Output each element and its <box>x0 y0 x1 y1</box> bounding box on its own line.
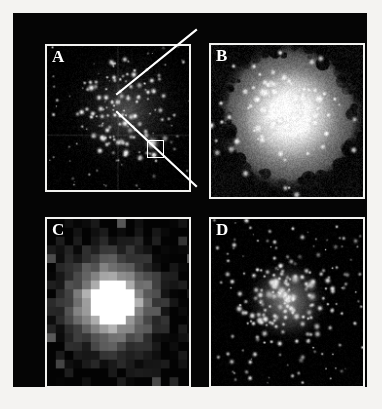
panel-c-label: C <box>52 220 64 239</box>
panel-a-label: A <box>52 47 64 66</box>
panel-d-image <box>211 219 363 386</box>
panel-b[interactable]: B <box>209 43 365 199</box>
panel-c[interactable]: C <box>45 217 191 388</box>
zoom-region-indicator <box>147 140 164 158</box>
panel-b-label: B <box>216 46 227 65</box>
panel-d[interactable]: D <box>209 217 365 388</box>
panel-c-image <box>47 219 189 386</box>
figure-mount: A B C D <box>13 13 367 387</box>
panel-a[interactable]: A <box>45 44 191 192</box>
figure-root: A B C D <box>0 0 382 409</box>
panel-d-label: D <box>216 220 228 239</box>
panel-b-image <box>211 45 363 197</box>
panel-a-image <box>47 46 189 190</box>
